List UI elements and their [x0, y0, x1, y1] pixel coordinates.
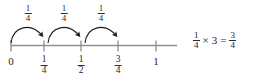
equation-left-fraction: 1 4	[193, 31, 200, 50]
jump-arc-2	[48, 28, 80, 43]
fraction-denominator: 4	[25, 14, 32, 23]
fraction-three-quarters: 3 4	[115, 55, 122, 75]
tick-label-text: 1	[153, 55, 159, 67]
tick-label-1-2: 1 2	[78, 55, 85, 75]
tick-label-0: 0	[8, 55, 14, 67]
fraction-denominator: 4	[229, 41, 236, 50]
fraction-one-quarter: 1 4	[41, 55, 48, 75]
multiplication-sign: ×	[203, 35, 209, 46]
fraction-one-half: 1 2	[78, 55, 85, 75]
tick-label-3-4: 3 4	[115, 55, 122, 75]
jump-label-1: 1 4	[25, 4, 32, 23]
jump-label-3: 1 4	[98, 4, 105, 23]
equation-multiplier: 3	[212, 35, 218, 46]
fraction-denominator: 4	[98, 14, 105, 23]
fraction-one-quarter: 1 4	[98, 4, 105, 23]
fraction-denominator: 4	[61, 14, 68, 23]
tick-label-text: 0	[8, 55, 14, 67]
equation: 1 4 × 3 = 3 4	[193, 31, 236, 50]
equation-result-fraction: 3 4	[229, 31, 236, 50]
fraction-denominator: 4	[193, 41, 200, 50]
tick-label-1-4: 1 4	[41, 55, 48, 75]
jump-arc-1	[11, 28, 43, 43]
fraction-one-quarter: 1 4	[25, 4, 32, 23]
equals-sign: =	[220, 35, 226, 46]
fraction-denominator: 4	[115, 66, 122, 76]
jump-arc-3	[85, 28, 117, 43]
fraction-denominator: 2	[78, 66, 85, 76]
figure-canvas: 1 4 1 4 1 4 0 1 4 1 2 3 4	[0, 0, 256, 77]
tick-label-1: 1	[153, 55, 159, 67]
jump-label-2: 1 4	[61, 4, 68, 23]
fraction-one-quarter: 1 4	[61, 4, 68, 23]
fraction-denominator: 4	[41, 66, 48, 76]
